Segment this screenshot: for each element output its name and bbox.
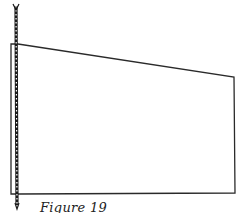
rope — [13, 4, 19, 209]
plank-shape — [11, 44, 235, 194]
figure-caption: Figure 19 — [40, 200, 107, 213]
figure-drawing — [0, 0, 237, 213]
